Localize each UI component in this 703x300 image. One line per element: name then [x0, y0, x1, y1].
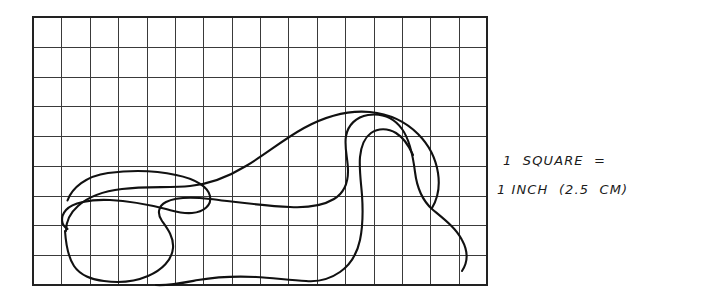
caption-line-2: 1 INCH (2.5 CM)	[497, 182, 628, 197]
figure-root: 1 SQUARE = 1 INCH (2.5 CM)	[0, 0, 703, 300]
blob-grid-figure: 1 SQUARE = 1 INCH (2.5 CM)	[0, 0, 703, 300]
caption-line-1: 1 SQUARE =	[503, 153, 606, 168]
